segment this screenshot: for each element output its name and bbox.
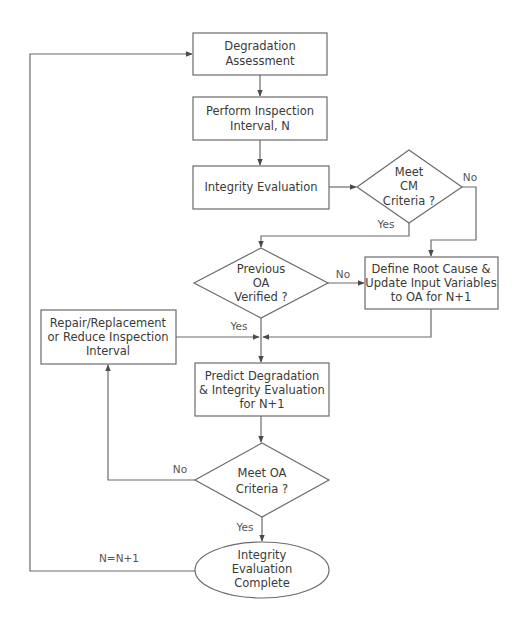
node-perform-inspection: Perform Inspection Interval, N <box>193 97 327 140</box>
node-text: CM <box>400 179 418 193</box>
node-text: Repair/Replacement <box>50 316 167 330</box>
node-previous-oa-verified: Previous OA Verified ? <box>194 248 328 318</box>
node-text: Integrity <box>238 548 287 562</box>
node-repair-replacement: Repair/Replacement or Reduce Inspection … <box>41 310 176 364</box>
label-prev-no: No <box>336 268 350 280</box>
node-text: Criteria ? <box>236 482 288 496</box>
node-text: for N+1 <box>239 397 284 411</box>
node-text: OA <box>253 276 270 290</box>
node-text: Predict Degradation <box>205 369 320 383</box>
node-text: Define Root Cause & <box>372 262 491 276</box>
label-loop: N=N+1 <box>99 552 139 564</box>
label-prev-yes: Yes <box>230 320 248 332</box>
node-text: Evaluation <box>232 562 293 576</box>
node-text: Update Input Variables <box>365 276 496 290</box>
node-text: Meet OA <box>238 466 287 480</box>
node-text: Criteria ? <box>383 194 435 208</box>
node-text: to OA for N+1 <box>391 290 472 304</box>
node-define-root-cause: Define Root Cause & Update Input Variabl… <box>365 257 498 309</box>
label-oa-no: No <box>173 463 187 475</box>
node-text: Meet <box>395 165 424 179</box>
node-text: Interval, N <box>230 119 290 133</box>
node-text: Perform Inspection <box>206 104 314 118</box>
node-text: Integrity Evaluation <box>204 180 317 194</box>
edge-rootcause-to-junction <box>263 309 431 337</box>
node-text: Previous <box>237 262 286 276</box>
flowchart-canvas: Degradation Assessment Perform Inspectio… <box>0 0 528 626</box>
node-text: Assessment <box>226 54 295 68</box>
label-cm-no: No <box>463 171 477 183</box>
node-predict-degradation: Predict Degradation & Integrity Evaluati… <box>195 363 329 416</box>
node-integrity-complete: Integrity Evaluation Complete <box>195 542 329 598</box>
node-text: Verified ? <box>234 290 287 304</box>
label-oa-yes: Yes <box>236 521 254 533</box>
node-text: Degradation <box>224 39 295 53</box>
node-text: Complete <box>234 576 289 590</box>
label-cm-yes: Yes <box>377 218 395 230</box>
node-degradation-assessment: Degradation Assessment <box>193 33 327 75</box>
node-integrity-evaluation: Integrity Evaluation <box>193 166 329 209</box>
node-meet-cm-criteria: Meet CM Criteria ? <box>357 150 462 223</box>
node-text: Interval <box>86 344 130 358</box>
node-meet-oa-criteria: Meet OA Criteria ? <box>195 443 329 517</box>
node-text: & Integrity Evaluation <box>199 383 325 397</box>
node-text: or Reduce Inspection <box>47 330 168 344</box>
